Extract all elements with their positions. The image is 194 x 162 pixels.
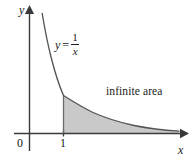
equation-lhs: y [55,39,60,51]
equation-equals-sign: = [62,39,69,51]
shaded-infinite-area-region [64,96,180,134]
origin-label: 0 [17,137,23,149]
x-axis-arrowhead [180,129,189,138]
plot-canvas [0,0,194,162]
x-tick-label-one: 1 [60,137,66,149]
infinite-area-figure: y x 0 1 infinite area y = 1 x [0,0,194,162]
infinite-area-annotation: infinite area [106,86,163,98]
equation-denominator: x [72,45,79,57]
equation-fraction: 1 x [71,32,79,57]
curve-equation-label: y = 1 x [55,32,79,57]
y-axis-label: y [19,4,24,16]
y-axis-arrowhead [25,5,34,14]
equation-numerator: 1 [71,32,79,44]
x-axis-label: x [178,144,183,156]
